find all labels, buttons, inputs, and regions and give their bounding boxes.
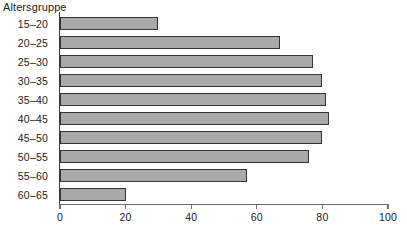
tick-mark: [125, 205, 126, 209]
tick-mark: [59, 205, 60, 209]
bar: [60, 36, 280, 49]
bar: [60, 74, 322, 87]
x-axis-tick-label: 20: [120, 211, 132, 223]
bar-row: [60, 147, 388, 166]
x-axis-tick-label: 40: [185, 211, 197, 223]
bar-row: [60, 33, 388, 52]
tick-mark: [387, 205, 388, 209]
bar-row: [60, 71, 388, 90]
y-axis-tick-label: 45–50: [0, 128, 54, 147]
y-axis-tick-label: 35–40: [0, 90, 54, 109]
plot-area: [60, 14, 388, 204]
y-axis-tick-label: 55–60: [0, 166, 54, 185]
bar-row: [60, 52, 388, 71]
bar-chart: Altersgruppe 15–2020–2525–3030–3535–4040…: [0, 0, 407, 230]
x-axis-tick: 100: [379, 205, 397, 223]
y-axis-tick-label: 40–45: [0, 109, 54, 128]
tick-mark: [322, 205, 323, 209]
bar: [60, 93, 326, 106]
bar: [60, 112, 329, 125]
x-axis-tick: 60: [251, 205, 263, 223]
bar-series: [60, 14, 388, 204]
bar: [60, 17, 158, 30]
bar-row: [60, 90, 388, 109]
y-axis-tick-label: 60–65: [0, 185, 54, 204]
bar: [60, 169, 247, 182]
y-axis-tick-label: 15–20: [0, 14, 54, 33]
y-axis-tick-label: 50–55: [0, 147, 54, 166]
bar-row: [60, 166, 388, 185]
bar: [60, 150, 309, 163]
x-axis-tick: 80: [316, 205, 328, 223]
y-axis-title: Altersgruppe: [3, 1, 67, 14]
bar-row: [60, 128, 388, 147]
bar: [60, 188, 126, 201]
tick-mark: [191, 205, 192, 209]
y-axis-tick-label: 20–25: [0, 33, 54, 52]
x-axis-tick-label: 60: [251, 211, 263, 223]
x-axis-tick-label: 80: [316, 211, 328, 223]
bar: [60, 131, 322, 144]
y-axis-tick-labels: 15–2020–2525–3030–3535–4040–4545–5050–55…: [0, 14, 54, 204]
x-axis-tick: 20: [120, 205, 132, 223]
tick-mark: [256, 205, 257, 209]
x-axis-tick: 0: [57, 205, 63, 223]
x-axis-tick-labels: 020406080100: [60, 205, 388, 227]
x-axis-tick: 40: [185, 205, 197, 223]
bar-row: [60, 185, 388, 204]
y-axis-tick-label: 30–35: [0, 71, 54, 90]
x-axis-tick-label: 100: [379, 211, 397, 223]
bar-row: [60, 109, 388, 128]
x-axis-tick-label: 0: [57, 211, 63, 223]
bar-row: [60, 14, 388, 33]
bar: [60, 55, 313, 68]
y-axis-tick-label: 25–30: [0, 52, 54, 71]
